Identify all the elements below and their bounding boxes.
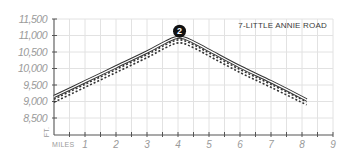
y-tick-label: 9,500 <box>23 79 47 91</box>
x-tick-label: 9 <box>330 139 336 150</box>
annotations: 2 <box>173 25 186 38</box>
y-tick-label: 8,500 <box>23 112 47 124</box>
x-tick-label: 3 <box>144 139 150 150</box>
profile-line-dashed <box>54 40 307 102</box>
y-tick-label: 11,500 <box>19 13 48 25</box>
y-axis-ticks: 8,5009,0009,50010,00010,50011,00011,500 <box>18 13 57 124</box>
x-tick-label: 1 <box>82 139 88 150</box>
y-tick-label: 9,000 <box>23 95 47 107</box>
x-tick-label: 6 <box>237 139 243 150</box>
x-axis-label: MILES <box>52 141 75 148</box>
x-tick-label: 7 <box>268 139 274 150</box>
y-tick-label: 10,500 <box>18 46 48 58</box>
x-tick-label: 4 <box>175 139 181 150</box>
profile-lines <box>54 37 307 105</box>
x-tick-label: 5 <box>206 139 212 150</box>
x-tick-label: 8 <box>299 139 305 150</box>
elevation-profile-chart: 8,5009,0009,50010,00010,50011,00011,500 … <box>0 0 356 162</box>
x-tick-label: 2 <box>112 139 119 150</box>
y-axis-label: FT. <box>43 127 50 138</box>
chart-title: 7-LITTLE ANNIE ROAD <box>238 21 327 30</box>
waypoint-marker-label: 2 <box>177 26 182 36</box>
y-tick-label: 11,000 <box>19 29 48 41</box>
y-tick-label: 10,000 <box>18 62 48 74</box>
